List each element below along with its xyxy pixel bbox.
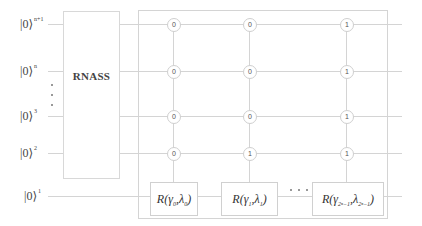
lambda-index: 1	[260, 201, 263, 207]
gate-func: R	[232, 192, 239, 206]
control-node: 0	[243, 18, 257, 32]
gate-func: R	[157, 192, 164, 206]
qubit-label-n-plus-1: |0⟩n+1	[20, 16, 43, 32]
gamma-index: 0	[173, 201, 176, 207]
qubit-label-1: |0⟩1	[24, 188, 41, 204]
ket-text: |0⟩	[20, 64, 33, 78]
vertical-ellipsis-dot	[51, 94, 53, 96]
horizontal-ellipsis-dot	[306, 189, 308, 191]
vertical-ellipsis-dot	[51, 104, 53, 106]
control-node: 1	[340, 147, 354, 161]
rotation-gate-1: R(γ1,λ1)	[221, 182, 278, 216]
qubit-label-n: |0⟩n	[20, 63, 37, 79]
rnass-block: RNASS	[63, 11, 120, 179]
qubit-index: 3	[34, 108, 37, 114]
control-node: 1	[243, 147, 257, 161]
control-node: 0	[167, 147, 181, 161]
qubit-label-2: |0⟩2	[20, 145, 37, 161]
horizontal-ellipsis-dot	[298, 189, 300, 191]
ket-text: |0⟩	[20, 109, 33, 123]
control-node: 1	[340, 18, 354, 32]
control-node: 1	[340, 65, 354, 79]
gamma-index: 2ⁿ−1	[338, 201, 350, 207]
control-node: 0	[167, 18, 181, 32]
lambda-index: 0	[184, 201, 187, 207]
control-node: 0	[243, 65, 257, 79]
lambda-index: 2ⁿ−1	[358, 201, 370, 207]
control-node: 0	[243, 110, 257, 124]
qubit-label-3: |0⟩3	[20, 108, 37, 124]
rotation-gate-last: R(γ2ⁿ−1,λ2ⁿ−1)	[312, 182, 384, 216]
gate-func: R	[322, 192, 329, 206]
control-node: 0	[167, 65, 181, 79]
ket-text: |0⟩	[20, 17, 33, 31]
vertical-ellipsis-dot	[51, 84, 53, 86]
control-node: 1	[340, 110, 354, 124]
horizontal-ellipsis-dot	[290, 189, 292, 191]
ket-text: |0⟩	[20, 146, 33, 160]
rotation-gate-0: R(γ0,λ0)	[150, 182, 198, 216]
rnass-label: RNASS	[64, 70, 119, 82]
qubit-index: 1	[38, 188, 41, 194]
qubit-index: n+1	[34, 16, 43, 22]
ket-text: |0⟩	[24, 189, 37, 203]
qubit-index: 2	[34, 145, 37, 151]
control-node: 0	[167, 110, 181, 124]
gamma-index: 1	[248, 201, 251, 207]
qubit-index: n	[34, 63, 37, 69]
